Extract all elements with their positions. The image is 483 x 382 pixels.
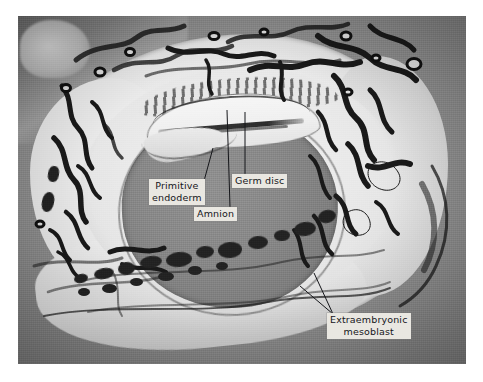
label-germ-disc-line1: Germ disc xyxy=(235,175,284,186)
figure-plate: Primitive endoderm Germ disc Amnion Extr… xyxy=(0,0,483,382)
caption-margin xyxy=(0,364,483,382)
leader-line-layer xyxy=(0,0,483,382)
leader-line-extraembryonic-mesoblast-a xyxy=(314,273,333,314)
label-primitive-endoderm-line1: Primitive xyxy=(152,180,202,192)
label-primitive-endoderm[interactable]: Primitive endoderm xyxy=(149,179,205,205)
label-extraembryonic-mesoblast-line1: Extraembryonic xyxy=(330,314,408,326)
leader-line-primitive-endoderm xyxy=(204,148,213,181)
leader-line-extraembryonic-mesoblast-b xyxy=(300,286,333,314)
label-amnion-line1: Amnion xyxy=(197,208,234,219)
leader-line-amnion xyxy=(227,110,230,207)
label-primitive-endoderm-line2: endoderm xyxy=(152,192,202,204)
label-extraembryonic-mesoblast[interactable]: Extraembryonic mesoblast xyxy=(327,313,411,339)
label-extraembryonic-mesoblast-line2: mesoblast xyxy=(330,326,408,338)
label-amnion[interactable]: Amnion xyxy=(194,207,237,221)
label-germ-disc[interactable]: Germ disc xyxy=(232,174,287,188)
